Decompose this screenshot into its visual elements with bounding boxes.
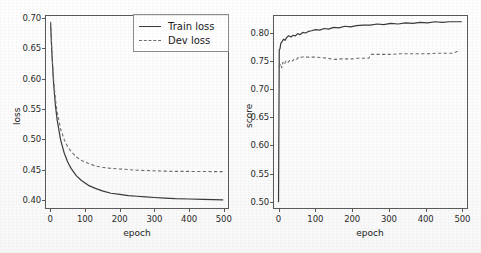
right-ytick-label: 0.70	[243, 84, 269, 94]
right-xtick-label: 300	[381, 214, 397, 224]
right-ytick-mark	[270, 117, 273, 118]
left-xtick-mark	[224, 209, 225, 212]
right-xtick-label: 500	[455, 214, 471, 224]
left-xtick-label: 500	[216, 214, 232, 224]
right-xtick-label: 100	[307, 214, 323, 224]
right-xtick-label: 0	[276, 214, 281, 224]
right-xtick-mark	[352, 209, 353, 212]
dev-accuracy-curve	[279, 50, 460, 68]
right-ytick-mark	[270, 61, 273, 62]
right-ytick-mark	[270, 89, 273, 90]
right-xtick-label: 400	[418, 214, 434, 224]
right-ytick-mark	[270, 174, 273, 175]
legend-item-dev-loss: Dev loss	[139, 33, 221, 47]
left-xtick-mark	[189, 209, 190, 212]
left-ytick-label: 0.40	[15, 195, 41, 205]
accuracy-x-axis-title: epoch	[356, 228, 383, 238]
dashed-line-icon	[139, 35, 161, 45]
right-xtick-mark	[426, 209, 427, 212]
right-xtick-mark	[462, 209, 463, 212]
left-xtick-label: 100	[77, 214, 93, 224]
left-ytick-label: 0.50	[15, 134, 41, 144]
accuracy-chart-panel: 0.500.550.600.650.700.750.80 01002003004…	[240, 0, 481, 253]
legend-label-dev-loss: Dev loss	[168, 35, 210, 46]
left-ytick-mark	[42, 18, 45, 19]
left-xtick-mark	[85, 209, 86, 212]
right-xtick-label: 200	[344, 214, 360, 224]
train-accuracy-curve	[279, 22, 462, 202]
loss-x-axis-title: epoch	[123, 228, 150, 238]
left-ytick-mark	[42, 200, 45, 201]
accuracy-y-axis-title: score	[244, 104, 254, 128]
left-ytick-mark	[42, 170, 45, 171]
left-ytick-mark	[42, 139, 45, 140]
right-xtick-mark	[279, 209, 280, 212]
left-ytick-mark	[42, 109, 45, 110]
left-xtick-label: 0	[48, 214, 53, 224]
right-xtick-mark	[389, 209, 390, 212]
left-xtick-mark	[120, 209, 121, 212]
right-ytick-mark	[270, 33, 273, 34]
right-ytick-label: 0.60	[243, 140, 269, 150]
right-ytick-mark	[270, 145, 273, 146]
training-curves-figure: 0.400.450.500.550.600.650.70 01002003004…	[0, 0, 481, 253]
left-xtick-mark	[50, 209, 51, 212]
loss-chart-panel: 0.400.450.500.550.600.650.70 01002003004…	[0, 0, 240, 253]
loss-legend: Train loss Dev loss	[133, 14, 229, 52]
solid-line-icon	[139, 21, 161, 31]
legend-label-train-loss: Train loss	[168, 21, 215, 32]
right-ytick-label: 0.50	[243, 197, 269, 207]
left-xtick-label: 200	[112, 214, 128, 224]
left-xtick-label: 400	[181, 214, 197, 224]
right-xtick-mark	[315, 209, 316, 212]
left-ytick-label: 0.45	[15, 165, 41, 175]
legend-item-train-loss: Train loss	[139, 19, 221, 33]
left-ytick-label: 0.60	[15, 74, 41, 84]
right-ytick-mark	[270, 202, 273, 203]
figure-page: 0.400.450.500.550.600.650.70 01002003004…	[0, 0, 481, 253]
right-ytick-label: 0.55	[243, 169, 269, 179]
right-ytick-label: 0.80	[243, 28, 269, 38]
left-xtick-mark	[154, 209, 155, 212]
left-ytick-label: 0.65	[15, 43, 41, 53]
left-ytick-mark	[42, 79, 45, 80]
loss-y-axis-title: loss	[12, 108, 22, 125]
right-ytick-label: 0.75	[243, 56, 269, 66]
left-xtick-label: 300	[146, 214, 162, 224]
left-ytick-mark	[42, 48, 45, 49]
left-ytick-label: 0.70	[15, 13, 41, 23]
